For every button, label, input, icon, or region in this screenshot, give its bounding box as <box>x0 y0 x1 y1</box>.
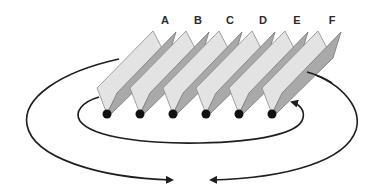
pivot-dot <box>169 110 178 119</box>
label-c: C <box>226 14 234 26</box>
pivot-dot <box>268 110 277 119</box>
label-b: B <box>194 14 202 26</box>
folded-plates-diagram: A B C D E F <box>0 0 376 194</box>
label-a: A <box>161 14 169 26</box>
label-d: D <box>259 14 267 26</box>
pivot-dot <box>202 110 211 119</box>
pivot-dot <box>136 110 145 119</box>
label-e: E <box>293 14 300 26</box>
pivot-dot <box>103 110 112 119</box>
label-f: F <box>329 14 336 26</box>
pivot-dot <box>235 110 244 119</box>
